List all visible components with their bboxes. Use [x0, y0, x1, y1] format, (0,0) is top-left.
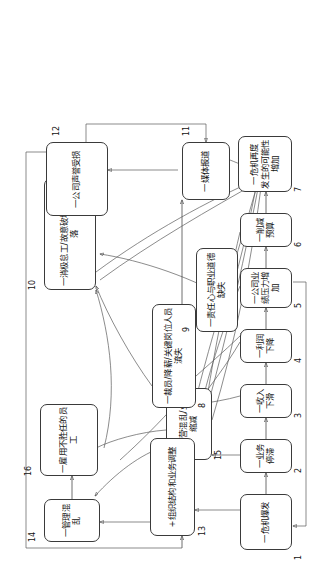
node-8-index: 8	[198, 403, 207, 408]
node-1[interactable]: 一危机爆发	[240, 494, 292, 550]
node-16[interactable]: 一雇用不胜任的员工	[40, 404, 98, 476]
node-3-index: 3	[294, 413, 303, 418]
node-2-label: 一业务停滞	[256, 442, 276, 470]
node-8-label: 一裁员/降薪/关键岗位人员流失	[164, 307, 184, 405]
node-16-label: 一雇用不胜任的员工	[59, 407, 79, 473]
node-5-label: 一公司业绩压力增加	[251, 271, 281, 305]
node-2[interactable]: 一业务停滞	[240, 439, 292, 473]
node-13[interactable]: +组织结构和业务调整	[150, 438, 195, 536]
node-4-index: 4	[294, 358, 303, 363]
node-11-label: 一媒体报道	[201, 151, 211, 192]
diagram-canvas: 一危机爆发 1 一业务停滞 2 一收入下滑 3 一利润下降 4 一公司业绩压力增…	[0, 0, 318, 572]
node-12-index: 12	[52, 126, 61, 136]
node-16-index: 16	[24, 466, 33, 476]
node-14[interactable]: 一管理混乱	[44, 499, 100, 542]
node-6[interactable]: 一削减预算	[240, 213, 292, 247]
node-12-label: 一公司声誉受损	[72, 150, 82, 207]
node-5-index: 5	[294, 303, 303, 308]
node-3[interactable]: 一收入下滑	[240, 384, 292, 418]
node-4[interactable]: 一利润下降	[240, 329, 292, 363]
node-5[interactable]: 一公司业绩压力增加	[240, 268, 292, 308]
node-13-index: 13	[198, 526, 207, 536]
node-1-index: 1	[294, 555, 303, 560]
node-8[interactable]: 一裁员/降薪/关键岗位人员流失	[152, 304, 196, 408]
node-6-index: 6	[294, 242, 303, 247]
node-7-index: 7	[294, 187, 303, 192]
node-12[interactable]: 一公司声誉受损	[46, 142, 108, 216]
node-6-label: 一削减预算	[256, 216, 276, 244]
node-14-index: 14	[28, 532, 37, 542]
node-9-index: 9	[182, 327, 191, 332]
node-13-label: +组织结构和业务调整	[168, 446, 178, 527]
node-9-label: 一责任心与职业道德缺失	[207, 251, 227, 329]
node-3-label: 一收入下滑	[256, 387, 276, 415]
diagram-stage: 一危机爆发 1 一业务停滞 2 一收入下滑 3 一利润下降 4 一公司业绩压力增…	[0, 0, 318, 572]
node-10-index: 10	[28, 280, 37, 290]
node-4-label: 一利润下降	[256, 332, 276, 360]
node-7-label-line2: 发生的可能性增加	[260, 139, 281, 189]
node-1-label: 一危机爆发	[261, 502, 271, 543]
node-14-label: 一管理混乱	[62, 502, 82, 539]
node-7-label-line1: 一危机再度	[249, 144, 260, 185]
node-9[interactable]: 一责任心与职业道德缺失	[196, 248, 238, 332]
node-7[interactable]: 一危机再度 发生的可能性增加	[238, 136, 292, 192]
node-11-index: 11	[182, 126, 191, 136]
node-2-index: 2	[294, 468, 303, 473]
node-11[interactable]: 一媒体报道	[182, 142, 230, 200]
node-15-index: 15	[214, 450, 223, 460]
